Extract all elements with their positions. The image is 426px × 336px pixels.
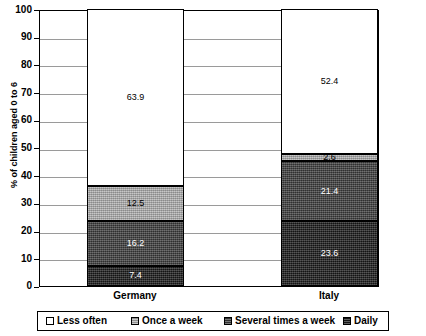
legend-label-several-times-a-week: Several times a week [235,315,335,326]
segment-italy-several-times-a-week: 21.4 [281,161,378,220]
x-category-label-italy: Italy [269,290,389,301]
legend-swatch-daily-icon [343,317,351,325]
y-tick-label-60: 60 [0,115,32,125]
stacked-bar-chart: % of children aged 0 to 6 100 90 80 70 6… [0,0,426,336]
chart-legend: Less often Once a week Several times a w… [37,311,389,331]
y-tick-label-50: 50 [0,143,32,153]
bar-italy: 52.4 2.6 21.4 23.6 [281,9,378,286]
legend-label-once-a-week: Once a week [142,315,203,326]
segment-germany-once-a-week: 12.5 [87,186,184,221]
y-tick-label-0: 0 [0,281,32,291]
legend-label-daily: Daily [354,315,378,326]
legend-item-less-often[interactable]: Less often [46,315,107,326]
segment-germany-less-often: 63.9 [87,9,184,186]
y-tick-mark-0 [34,287,39,288]
y-tick-label-10: 10 [0,254,32,264]
segment-germany-daily: 7.4 [87,266,184,287]
segment-italy-once-a-week: 2.6 [281,154,378,161]
y-tick-label-40: 40 [0,171,32,181]
legend-swatch-several-times-a-week-icon [224,317,232,325]
y-tick-label-90: 90 [0,32,32,42]
legend-item-daily[interactable]: Daily [343,315,378,326]
legend-swatch-once-a-week-icon [131,317,139,325]
legend-label-less-often: Less often [57,315,107,326]
plot-area: 63.9 12.5 16.2 7.4 52.4 2.6 [39,10,379,287]
segment-germany-several-times-a-week: 16.2 [87,221,184,266]
segment-italy-daily: 23.6 [281,221,378,286]
bar-germany: 63.9 12.5 16.2 7.4 [87,9,184,286]
y-tick-label-80: 80 [0,60,32,70]
y-tick-label-30: 30 [0,198,32,208]
legend-swatch-less-often-icon [46,317,54,325]
y-tick-label-20: 20 [0,226,32,236]
x-category-label-germany: Germany [75,290,195,301]
segment-italy-less-often: 52.4 [281,9,378,154]
y-axis-title: % of children aged 0 to 6 [9,25,19,245]
y-tick-label-100: 100 [0,5,32,15]
legend-item-several-times-a-week[interactable]: Several times a week [224,315,335,326]
y-tick-label-70: 70 [0,88,32,98]
legend-item-once-a-week[interactable]: Once a week [131,315,203,326]
